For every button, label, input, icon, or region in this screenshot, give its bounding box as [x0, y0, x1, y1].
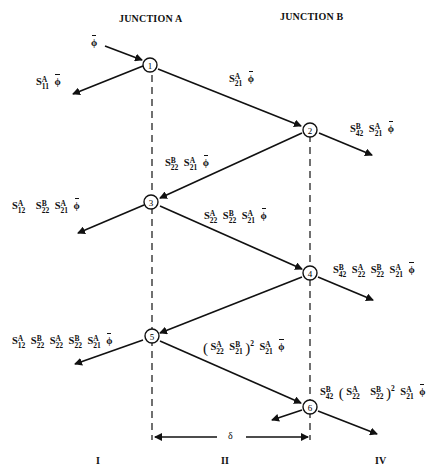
label-transmission-5-6: ( SA22 SB21 )2 SA21 ϕ: [203, 340, 285, 356]
label-output-6: SB42 ( SA22 SB22 )2 SA21 ϕ: [320, 385, 425, 401]
incident-label: ϕ: [91, 38, 97, 48]
svg-text:3: 3: [149, 198, 154, 208]
region-label-iv: IV: [375, 455, 386, 466]
region-label-ii: II: [221, 455, 229, 466]
node-1: 1: [143, 58, 157, 72]
label-transmission-3-4: SA22 SB22 SA21 ϕ: [204, 210, 267, 224]
output-arrow-6: [318, 411, 377, 434]
svg-text:2: 2: [308, 126, 313, 136]
node-4: 4: [303, 266, 317, 280]
reflection-arrow-6: [272, 410, 302, 420]
incident-arrow: [105, 46, 142, 60]
output-arrow-4: [318, 277, 373, 300]
svg-text:1: 1: [148, 61, 153, 71]
junction-a-header: JUNCTION A: [119, 13, 182, 24]
node-6: 6: [303, 400, 317, 414]
node-3: 3: [144, 195, 158, 209]
label-output-4: SB42 SA22 SB22 SA21 ϕ: [333, 264, 415, 278]
label-reflection-1: SA11 ϕ: [36, 76, 61, 90]
junction-b-header: JUNCTION B: [280, 11, 343, 22]
output-arrow-3: [78, 205, 144, 233]
label-output-3: SA12 SB22 SA21 ϕ: [12, 200, 80, 214]
svg-text:6: 6: [308, 403, 313, 413]
label-transmission-1-2: SA21 ϕ: [229, 73, 254, 87]
reflection-arrow-1: [73, 66, 143, 94]
label-output-5: SA12 SB22 SA22 SB22 SA21 ϕ: [12, 335, 112, 349]
svg-text:4: 4: [308, 269, 313, 279]
scattering-diagram: 1 2 3 4 5 6: [0, 0, 431, 472]
node-5: 5: [145, 329, 159, 343]
reflection-arrow-4-5: [160, 277, 302, 333]
region-label-i: I: [96, 455, 100, 466]
label-reflection-2-3: SB22 SA21 ϕ: [165, 157, 209, 171]
delta-label: δ: [228, 430, 233, 441]
node-2: 2: [303, 123, 317, 137]
svg-text:5: 5: [150, 332, 155, 342]
label-output-2: SB42 SA21 ϕ: [350, 123, 394, 137]
